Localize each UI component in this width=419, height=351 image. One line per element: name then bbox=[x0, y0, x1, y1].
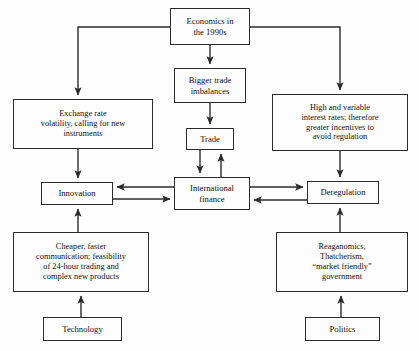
node-trade: Trade bbox=[186, 128, 234, 150]
node-reaganomics-thatcherism-label: Reaganomics, Thatcherism, “market friend… bbox=[312, 242, 371, 282]
node-trade-label: Trade bbox=[200, 134, 220, 144]
node-reaganomics-thatcherism: Reaganomics, Thatcherism, “market friend… bbox=[276, 232, 408, 292]
node-innovation-label: Innovation bbox=[58, 188, 95, 198]
node-economics-in-the-1990s: Economics in the 1990s bbox=[170, 8, 250, 45]
edge-layer bbox=[0, 0, 419, 351]
flowchart-economics-in-the-1990s: Economics in the 1990sBigger trade imbal… bbox=[0, 0, 419, 351]
node-exchange-rate-volatility: Exchange rate volatility, calling for ne… bbox=[13, 99, 153, 149]
node-economics-in-the-1990s-label: Economics in the 1990s bbox=[186, 16, 233, 36]
node-international-finance-label: International finance bbox=[190, 183, 234, 203]
node-innovation: Innovation bbox=[41, 182, 113, 205]
node-cheaper-faster-communication: Cheaper, faster communication; feasibili… bbox=[13, 232, 149, 292]
node-high-and-variable-interest-rates: High and variable interest rates; theref… bbox=[272, 94, 408, 151]
node-bigger-trade-imbalances-label: Bigger trade imbalances bbox=[189, 75, 232, 95]
node-high-and-variable-interest-rates-label: High and variable interest rates; theref… bbox=[301, 103, 378, 143]
node-exchange-rate-volatility-label: Exchange rate volatility, calling for ne… bbox=[41, 109, 126, 139]
node-technology: Technology bbox=[43, 317, 122, 341]
node-technology-label: Technology bbox=[62, 324, 102, 334]
node-politics: Politics bbox=[305, 317, 380, 341]
node-international-finance: International finance bbox=[174, 177, 250, 210]
node-bigger-trade-imbalances: Bigger trade imbalances bbox=[174, 68, 246, 103]
node-deregulation: Deregulation bbox=[307, 181, 379, 204]
node-cheaper-faster-communication-label: Cheaper, faster communication; feasibili… bbox=[36, 242, 126, 282]
node-politics-label: Politics bbox=[330, 324, 356, 334]
node-deregulation-label: Deregulation bbox=[321, 187, 366, 197]
